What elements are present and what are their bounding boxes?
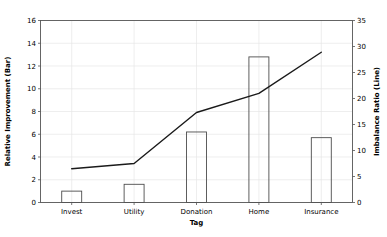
y2-tick-label: 15 — [357, 121, 366, 129]
x-tick-label-invest: Invest — [61, 208, 83, 216]
y-tick-label: 12 — [27, 63, 36, 71]
y-tick-label: 0 — [32, 199, 36, 207]
axis-titles-group: TagRelative Improvement (Bar)Imbalance R… — [4, 57, 381, 227]
x-tick-label-home: Home — [249, 208, 270, 216]
chart-canvas: 0246810121416 05101520253035 InvestUtili… — [0, 0, 387, 237]
gridlines-group — [41, 21, 353, 203]
y-axis-title: Relative Improvement (Bar) — [4, 57, 12, 167]
y-tick-label: 4 — [32, 154, 37, 162]
y2-tick-label: 20 — [357, 95, 366, 103]
y-tick-label: 2 — [32, 176, 36, 184]
y-tick-label: 8 — [32, 108, 36, 116]
y2-tick-label: 10 — [357, 147, 366, 155]
y2-axis-tick-labels: 05101520253035 — [357, 17, 366, 207]
x-tick-label-donation: Donation — [181, 208, 213, 216]
y-tick-label: 10 — [27, 85, 36, 93]
y-tick-label: 16 — [27, 17, 36, 25]
y2-axis-title: Imbalance Ratio (Line) — [373, 67, 381, 156]
x-tick-label-utility: Utility — [124, 208, 145, 216]
y2-tick-label: 35 — [357, 17, 366, 25]
y2-tick-label: 5 — [357, 173, 361, 181]
chart-figure: 0246810121416 05101520253035 InvestUtili… — [0, 0, 387, 237]
y-axis-tick-labels: 0246810121416 — [27, 17, 36, 207]
y2-tick-label: 0 — [357, 199, 361, 207]
y2-tick-label: 30 — [357, 43, 366, 51]
y-tick-label: 14 — [27, 40, 36, 48]
y-tick-label: 6 — [32, 131, 37, 139]
x-axis-tick-labels: InvestUtilityDonationHomeInsurance — [61, 208, 338, 216]
x-axis-title: Tag — [190, 219, 204, 227]
x-tick-label-insurance: Insurance — [304, 208, 338, 216]
y2-tick-label: 25 — [357, 69, 366, 77]
